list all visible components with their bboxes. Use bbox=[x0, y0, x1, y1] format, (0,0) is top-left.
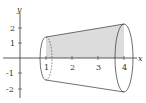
y-axis-label: y bbox=[16, 5, 22, 14]
x-tick-label: 3 bbox=[96, 63, 101, 72]
x-tick-label: 1 bbox=[44, 63, 49, 72]
y-tick-label: -1 bbox=[6, 69, 14, 78]
cone-bottom-edge bbox=[46, 80, 124, 92]
y-tick-label: 2 bbox=[10, 24, 15, 33]
x-tick-label: 4 bbox=[122, 63, 127, 72]
solid-of-revolution-figure: y x 1 2 3 4 2 1 -1 -2 bbox=[0, 0, 146, 103]
y-tick-label: -2 bbox=[6, 85, 14, 94]
y-tick-label: 1 bbox=[10, 39, 15, 48]
x-axis-label: x bbox=[138, 54, 143, 63]
shaded-region bbox=[46, 24, 124, 58]
x-tick-label: 2 bbox=[70, 63, 75, 72]
left-ellipse-front bbox=[40, 37, 46, 80]
